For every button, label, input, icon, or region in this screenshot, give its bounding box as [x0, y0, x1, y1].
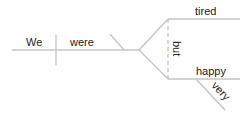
modifier-word: very — [210, 79, 233, 103]
conjunction-word: but — [171, 41, 183, 56]
complement-marker — [110, 34, 124, 50]
fork-lower-branch — [139, 50, 168, 79]
complement-word-top: tired — [195, 5, 216, 17]
fork-upper-branch — [139, 19, 168, 50]
complement-word-bottom: happy — [196, 65, 226, 77]
sentence-diagram: We were tired happy but very — [0, 0, 247, 116]
subject-word: We — [26, 36, 42, 48]
verb-word: were — [69, 36, 94, 48]
